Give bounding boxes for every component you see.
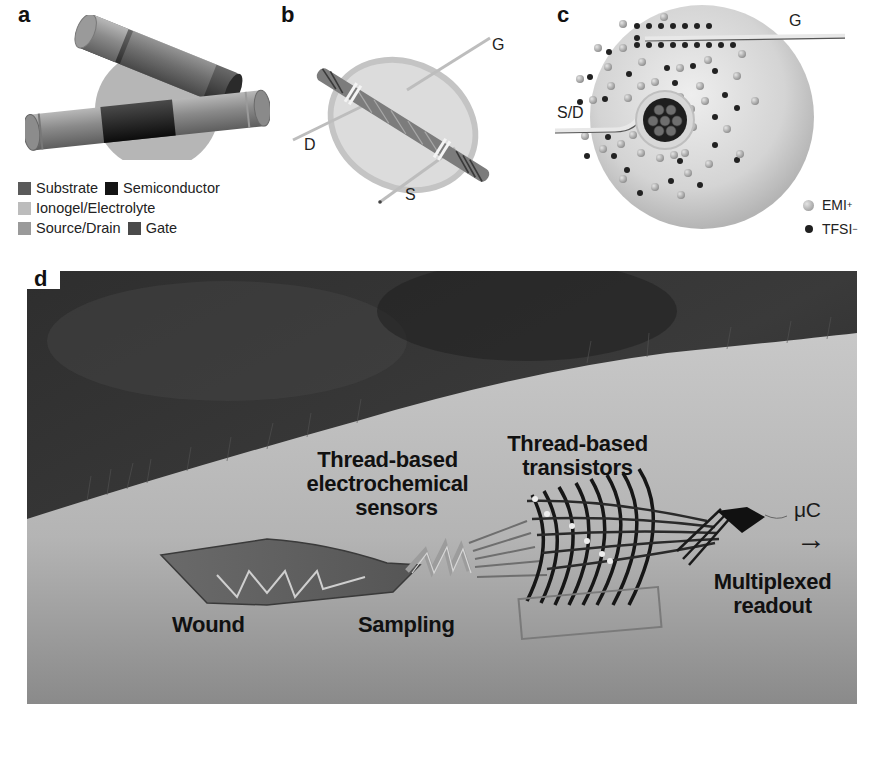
legend-label-ionogel: Ionogel/Electrolyte bbox=[36, 198, 155, 218]
label-sensors-line1: Thread-based bbox=[300, 448, 475, 472]
label-readout: Multiplexed readout bbox=[705, 570, 840, 618]
tfsi-ion-icon bbox=[805, 225, 813, 233]
panel-c-legend: EMI+ TFSI− bbox=[803, 193, 858, 241]
legend-label-substrate: Substrate bbox=[36, 178, 98, 198]
label-microcontroller: μC bbox=[794, 498, 821, 522]
emi-ion-icon bbox=[803, 200, 814, 211]
terminal-label-gate-b: G bbox=[492, 36, 504, 54]
label-wound: Wound bbox=[172, 613, 245, 637]
terminal-label-source-b: S bbox=[405, 186, 416, 204]
panel-b-thread-transistor-illustration bbox=[285, 30, 525, 210]
panel-label-b: b bbox=[281, 4, 294, 26]
legend-label-source-drain: Source/Drain bbox=[36, 218, 121, 238]
legend-swatch-semiconductor bbox=[105, 182, 118, 195]
panel-label-d: d bbox=[34, 268, 47, 290]
legend-label-tfsi: TFSI bbox=[822, 221, 852, 237]
label-transistors: Thread-based transistors bbox=[495, 432, 660, 480]
legend-item-tfsi: TFSI− bbox=[803, 217, 858, 241]
legend-swatch-gate bbox=[128, 222, 141, 235]
legend-row-3: Source/Drain Gate bbox=[18, 218, 220, 238]
label-readout-line1: Multiplexed bbox=[705, 570, 840, 594]
legend-sup-tfsi: − bbox=[852, 224, 857, 234]
label-sensors-line3: sensors bbox=[300, 496, 475, 520]
label-sensors: Thread-based electrochemical sensors bbox=[300, 448, 475, 520]
legend-row-1: Substrate Semiconductor bbox=[18, 178, 220, 198]
label-readout-line2: readout bbox=[705, 594, 840, 618]
panel-a-transistor-illustration bbox=[25, 15, 270, 160]
terminal-label-gate-c: G bbox=[789, 12, 801, 30]
panel-c-cross-section-illustration bbox=[555, 0, 845, 235]
arrow-right-icon: → bbox=[796, 524, 826, 554]
legend-swatch-ionogel bbox=[18, 202, 31, 215]
legend-label-emi: EMI bbox=[822, 197, 847, 213]
terminal-label-source-drain-c: S/D bbox=[557, 104, 584, 122]
label-transistors-line2: transistors bbox=[495, 456, 660, 480]
label-transistors-line1: Thread-based bbox=[495, 432, 660, 456]
legend-sup-emi: + bbox=[847, 200, 852, 210]
legend-label-semiconductor: Semiconductor bbox=[123, 178, 220, 198]
label-sensors-line2: electrochemical bbox=[300, 472, 475, 496]
label-sampling: Sampling bbox=[358, 613, 455, 637]
panel-a-legend: Substrate Semiconductor Ionogel/Electrol… bbox=[18, 178, 220, 238]
legend-row-2: Ionogel/Electrolyte bbox=[18, 198, 220, 218]
legend-swatch-source-drain bbox=[18, 222, 31, 235]
legend-item-emi: EMI+ bbox=[803, 193, 858, 217]
legend-swatch-substrate bbox=[18, 182, 31, 195]
legend-label-gate: Gate bbox=[146, 218, 177, 238]
terminal-label-drain-b: D bbox=[304, 136, 316, 154]
